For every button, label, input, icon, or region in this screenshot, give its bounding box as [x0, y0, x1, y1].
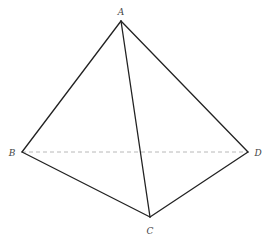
vertex-label-d: D [253, 148, 261, 158]
edge-cd [150, 152, 248, 217]
edge-ac [121, 21, 150, 217]
edge-ad [121, 21, 248, 152]
tetrahedron-diagram: A B C D [0, 0, 270, 244]
edge-ab [22, 21, 121, 152]
diagram-svg: A B C D [0, 0, 270, 244]
vertex-label-a: A [117, 7, 125, 17]
vertex-label-c: C [147, 226, 154, 236]
vertex-label-b: B [8, 148, 16, 158]
edge-bc [22, 152, 150, 217]
